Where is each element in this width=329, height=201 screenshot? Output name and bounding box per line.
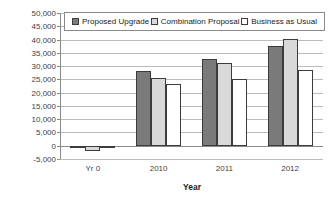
y-tick-label: 20,000 <box>0 89 56 98</box>
y-tick-label: 45,000 <box>0 22 56 31</box>
legend-label: Business as Usual <box>251 17 317 26</box>
y-tick-label: 30,000 <box>0 62 56 71</box>
gridline <box>60 159 323 160</box>
y-tick-label: 25,000 <box>0 75 56 84</box>
legend: Proposed UpgradeCombination ProposalBusi… <box>64 12 325 31</box>
legend-item: Proposed Upgrade <box>72 17 149 26</box>
y-tick-mark <box>57 119 60 120</box>
bar <box>166 84 181 146</box>
y-axis-line <box>60 13 61 159</box>
bar <box>232 79 247 145</box>
y-tick-label: 50,000 <box>0 9 56 18</box>
legend-label: Combination Proposal <box>161 17 240 26</box>
legend-swatch-icon <box>151 18 158 25</box>
bar <box>85 146 100 151</box>
y-tick-mark <box>57 146 60 147</box>
bar <box>268 46 283 146</box>
legend-label: Proposed Upgrade <box>82 17 149 26</box>
bar <box>151 78 166 146</box>
legend-item: Business as Usual <box>241 17 317 26</box>
y-tick-mark <box>57 26 60 27</box>
y-tick-label: -5,000 <box>0 155 56 164</box>
y-tick-label: 10,000 <box>0 115 56 124</box>
y-tick-mark <box>57 79 60 80</box>
legend-swatch-icon <box>241 18 248 25</box>
x-axis-title: Year <box>120 182 264 192</box>
bar <box>217 63 232 146</box>
bar <box>283 39 298 146</box>
y-tick-label: 5,000 <box>0 128 56 137</box>
bar <box>136 71 151 145</box>
legend-item: Combination Proposal <box>151 17 240 26</box>
bar <box>100 146 115 148</box>
bar <box>202 59 217 146</box>
legend-swatch-icon <box>72 18 79 25</box>
x-tick-label: Yr 0 <box>73 164 113 173</box>
x-tick-label: 2012 <box>270 164 310 173</box>
y-tick-mark <box>57 53 60 54</box>
y-tick-mark <box>57 132 60 133</box>
x-tick-label: 2010 <box>139 164 179 173</box>
y-tick-label: 35,000 <box>0 49 56 58</box>
y-tick-mark <box>57 159 60 160</box>
bar <box>298 70 313 146</box>
y-tick-mark <box>57 106 60 107</box>
plot-area <box>60 13 323 159</box>
net-cash-flow-bar-chart: Net Cash Flow ($1,000s) 50,00045,00040,0… <box>0 0 329 201</box>
y-tick-mark <box>57 66 60 67</box>
y-tick-label: 0 <box>0 142 56 151</box>
y-tick-mark <box>57 40 60 41</box>
y-tick-mark <box>57 13 60 14</box>
y-tick-label: 40,000 <box>0 36 56 45</box>
x-tick-label: 2011 <box>204 164 244 173</box>
y-tick-label: 15,000 <box>0 102 56 111</box>
bar <box>70 146 85 149</box>
y-tick-mark <box>57 93 60 94</box>
